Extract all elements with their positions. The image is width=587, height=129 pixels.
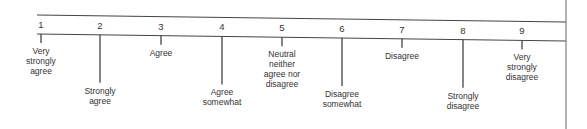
scale-label: Verystronglydisagree (506, 52, 539, 82)
scale-label-line: Agree (211, 87, 234, 97)
scale-label-line: Very (513, 52, 531, 62)
scale-baseline (37, 34, 566, 41)
scale-label-line: disagree (506, 72, 539, 82)
scale-label: Stronglyagree (84, 86, 116, 106)
scale-label-line: Disagree (325, 89, 359, 99)
scale-label-line: strongly (26, 56, 57, 66)
scale-point-1: 1Verystronglyagree (26, 19, 57, 76)
scale-point-5: 5Neutralneitheragree nordisagree (264, 22, 301, 89)
scale-point-6: 6Disagreesomewhat (323, 23, 362, 109)
scale-number: 7 (399, 24, 404, 35)
scale-point-8: 8Stronglydisagree (447, 25, 480, 111)
scale-point-3: 3Agree (150, 21, 173, 58)
scale-points: 1Verystronglyagree2Stronglyagree3Agree4A… (26, 19, 538, 111)
scale-label-line: agree (89, 96, 111, 106)
scale-top-rule (37, 15, 566, 22)
scale-number: 2 (97, 20, 102, 31)
scale-label: Disagreesomewhat (323, 89, 362, 109)
scale-label: Stronglydisagree (447, 91, 480, 111)
scale-number: 6 (339, 23, 344, 34)
scale-number: 4 (219, 21, 224, 32)
scale-number: 9 (519, 25, 524, 36)
scale-number: 3 (158, 21, 163, 32)
scale-label-line: Disagree (385, 51, 419, 61)
rating-scale-diagram: 1Verystronglyagree2Stronglyagree3Agree4A… (0, 0, 587, 129)
scale-label-line: somewhat (323, 99, 362, 109)
scale-label: Agreesomewhat (203, 87, 242, 107)
scale-label-line: Agree (150, 48, 173, 58)
scale-number: 1 (38, 19, 43, 30)
scale-number: 5 (279, 22, 284, 33)
scale-label-line: Strongly (447, 91, 479, 101)
scale-label-line: agree (30, 66, 52, 76)
scale-label-line: Very (32, 46, 50, 56)
scale-point-7: 7Disagree (385, 24, 419, 61)
scale-point-2: 2Stronglyagree (84, 20, 116, 106)
scale-label: Verystronglyagree (26, 46, 57, 76)
scale-label: Disagree (385, 51, 419, 61)
scale-label-line: neither (269, 59, 295, 69)
scale-label-line: Neutral (268, 49, 296, 59)
scale-label-line: somewhat (203, 97, 242, 107)
scale-label-line: strongly (507, 62, 538, 72)
scale-label-line: disagree (266, 79, 299, 89)
scale-label-line: disagree (447, 101, 480, 111)
scale-point-9: 9Verystronglydisagree (506, 25, 539, 82)
scale-label: Neutralneitheragree nordisagree (264, 49, 301, 89)
scale-label-line: Strongly (84, 86, 116, 96)
scale-label-line: agree nor (264, 69, 301, 79)
scale-label: Agree (150, 48, 173, 58)
scale-point-4: 4Agreesomewhat (203, 21, 242, 107)
scale-number: 8 (460, 25, 465, 36)
